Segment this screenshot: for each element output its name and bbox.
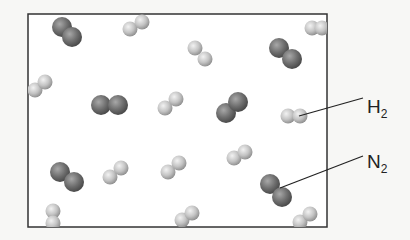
atom [46, 216, 61, 231]
n2-element: N [367, 151, 381, 172]
h2-label: H2 [367, 97, 387, 120]
atom [114, 161, 129, 176]
n2-label: N2 [367, 152, 387, 175]
atom [38, 75, 53, 90]
atom [169, 92, 184, 107]
atom [272, 187, 292, 207]
atom [303, 207, 318, 222]
h2-molecule [305, 21, 330, 36]
atom [228, 92, 248, 112]
atom [62, 27, 82, 47]
atom [198, 52, 213, 67]
atom [135, 15, 150, 30]
h2-subscript: 2 [381, 107, 388, 121]
h2-element: H [367, 96, 381, 117]
atom [238, 145, 253, 160]
atom [64, 172, 84, 192]
atom [185, 206, 200, 221]
atom [108, 95, 128, 115]
atom [172, 156, 187, 171]
atom [282, 49, 302, 69]
gas-mixture-diagram [0, 0, 410, 240]
n2-subscript: 2 [381, 162, 388, 176]
